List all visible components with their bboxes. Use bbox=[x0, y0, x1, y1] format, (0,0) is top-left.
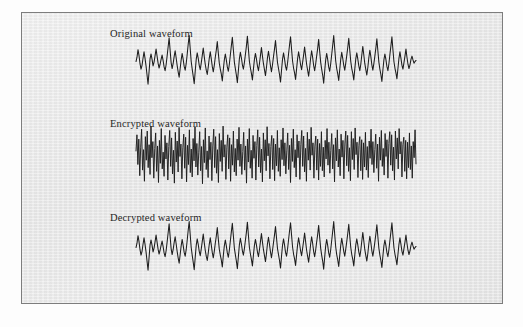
panel-decrypted: Decrypted waveform bbox=[22, 207, 502, 303]
panel-label-original: Original waveform bbox=[110, 28, 193, 40]
panel-encrypted: Encrypted waveform bbox=[22, 109, 502, 207]
panel-original: Original waveform bbox=[22, 13, 502, 109]
panel-label-decrypted: Decrypted waveform bbox=[110, 212, 202, 224]
figure-frame: Original waveform Encrypted waveform Dec… bbox=[21, 12, 503, 304]
panel-label-encrypted: Encrypted waveform bbox=[110, 118, 201, 130]
waveform-original bbox=[22, 13, 502, 109]
waveform-original-path bbox=[136, 36, 416, 85]
waveform-decrypted bbox=[22, 207, 502, 303]
waveform-encrypted bbox=[22, 109, 502, 207]
waveform-decrypted-path bbox=[136, 222, 416, 271]
waveform-encrypted-path bbox=[136, 126, 416, 184]
